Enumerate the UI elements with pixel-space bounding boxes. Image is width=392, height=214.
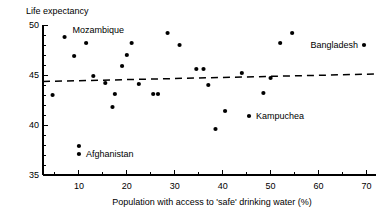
x-axis-title: Population with access to 'safe' drinkin… (112, 197, 312, 207)
point-annotation-label: Afghanistan (86, 149, 134, 159)
data-point (194, 67, 198, 71)
data-point (72, 54, 76, 58)
y-tick-label: 40 (29, 120, 39, 130)
data-point (113, 92, 117, 96)
y-tick-label: 35 (29, 170, 39, 180)
point-annotation-label: Kampuchea (256, 111, 304, 121)
plot-area: 35404550 10203040506070 MozambiqueBangla… (0, 0, 392, 214)
data-point (62, 35, 66, 39)
data-point (130, 41, 134, 45)
data-point (120, 64, 124, 68)
x-axis-tick-labels: 10203040506070 (74, 181, 371, 191)
data-point (91, 74, 95, 78)
data-point (165, 31, 169, 35)
data-point (77, 144, 81, 148)
data-point (103, 81, 107, 85)
x-tick-label: 10 (74, 181, 84, 191)
x-tick-label: 20 (122, 181, 132, 191)
data-point (156, 92, 160, 96)
data-point (50, 93, 54, 97)
data-point (278, 41, 282, 45)
y-tick-label: 50 (29, 20, 39, 30)
y-tick-label: 45 (29, 70, 39, 80)
data-point (201, 67, 205, 71)
data-point (84, 41, 88, 45)
x-tick-label: 30 (170, 181, 180, 191)
x-tick-label: 70 (361, 181, 371, 191)
data-point (177, 43, 181, 47)
point-annotation-label: Mozambique (73, 25, 125, 35)
scatter-chart: 35404550 10203040506070 MozambiqueBangla… (0, 0, 392, 214)
y-axis-title: Life expectancy (26, 6, 89, 16)
x-axis-ticks (55, 170, 366, 175)
data-point (240, 71, 244, 75)
x-tick-label: 60 (313, 181, 323, 191)
data-point (247, 114, 251, 118)
data-point (268, 76, 272, 80)
data-point (261, 91, 265, 95)
x-tick-label: 40 (218, 181, 228, 191)
data-point (362, 43, 366, 47)
data-point (77, 152, 81, 156)
y-axis-ticks (43, 25, 48, 175)
x-tick-label: 50 (266, 181, 276, 191)
data-point (110, 105, 114, 109)
data-point (206, 83, 210, 87)
point-annotation-label: Bangladesh (310, 40, 358, 50)
data-point (125, 53, 129, 57)
y-axis-tick-labels: 35404550 (29, 20, 39, 180)
data-point (151, 92, 155, 96)
data-point (223, 109, 227, 113)
data-point (213, 127, 217, 131)
data-point (290, 31, 294, 35)
data-point (137, 82, 141, 86)
